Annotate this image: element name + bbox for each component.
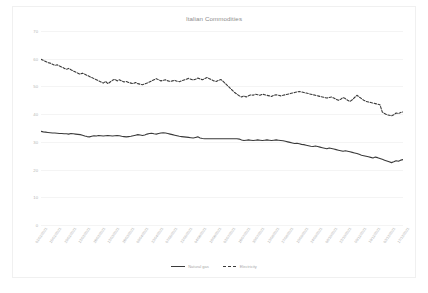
x-axis-tick-label: 18/06/2021 — [208, 227, 222, 244]
legend-item[interactable]: Electricity — [223, 264, 257, 269]
x-axis-tick-label: 15/01/2021 — [49, 227, 63, 244]
chart-legend: Natural gasElectricity — [13, 264, 415, 269]
y-axis-tick-label: 20 — [33, 167, 38, 172]
x-axis-tick-label: 27/08/2021 — [281, 227, 295, 244]
legend-label: Electricity — [240, 264, 257, 269]
x-axis-tick-label: 24/09/2021 — [310, 227, 324, 244]
plot-area: 010203040506070 — [41, 31, 403, 225]
solid-line-icon — [171, 266, 185, 268]
x-axis-tick-label: 30/07/2021 — [252, 227, 266, 244]
y-axis-tick-label: 70 — [33, 29, 38, 34]
y-axis-tick-label: 50 — [33, 84, 38, 89]
chart-card: Italian Commodities 010203040506070 01/0… — [12, 6, 416, 278]
x-axis-tick-label: 05/11/2021 — [353, 227, 366, 244]
x-axis-tick-label: 10/09/2021 — [295, 227, 309, 244]
y-axis-tick-label: 40 — [33, 112, 38, 117]
x-axis-tick-label: 07/05/2021 — [165, 227, 179, 244]
x-axis-tick-label: 29/01/2021 — [64, 227, 78, 244]
x-axis-tick-label: 19/11/2021 — [368, 227, 381, 244]
series-line — [41, 131, 403, 162]
x-axis-tick-label: 02/07/2021 — [223, 227, 237, 244]
legend-label: Natural gas — [188, 264, 208, 269]
x-axis-labels: 01/01/202115/01/202129/01/202112/02/2021… — [41, 227, 403, 267]
series-layer — [41, 31, 403, 225]
series-line — [41, 59, 403, 116]
x-axis-tick-label: 16/07/2021 — [237, 227, 251, 244]
x-axis-tick-label: 17/12/2021 — [397, 227, 411, 244]
x-axis-tick-label: 09/04/2021 — [136, 227, 150, 244]
x-axis-tick-label: 26/03/2021 — [122, 227, 136, 244]
x-axis-tick-label: 03/12/2021 — [382, 227, 396, 244]
y-axis-tick-label: 0 — [36, 223, 38, 228]
x-axis-tick-label: 13/08/2021 — [266, 227, 280, 244]
x-axis-tick-label: 08/10/2021 — [324, 227, 338, 244]
chart-title: Italian Commodities — [13, 15, 415, 22]
x-axis-tick-label: 22/10/2021 — [339, 227, 353, 244]
x-axis-tick-label: 01/01/2021 — [35, 227, 49, 244]
legend-item[interactable]: Natural gas — [171, 264, 208, 269]
y-axis-tick-label: 60 — [33, 56, 38, 61]
x-axis-tick-label: 04/06/2021 — [194, 227, 208, 244]
x-axis-tick-label: 26/02/2021 — [93, 227, 107, 244]
x-axis-tick-label: 12/03/2021 — [107, 227, 121, 244]
x-axis-tick-label: 23/04/2021 — [151, 227, 165, 244]
y-axis-tick-label: 10 — [33, 195, 38, 200]
dashed-line-icon — [223, 266, 237, 268]
x-axis-tick-label: 21/05/2021 — [179, 227, 193, 244]
x-axis-tick-label: 12/02/2021 — [78, 227, 92, 244]
y-axis-tick-label: 30 — [33, 139, 38, 144]
